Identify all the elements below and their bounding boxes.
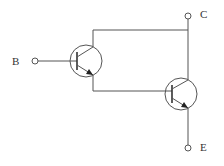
collector-terminal: [185, 13, 191, 19]
q2-body-icon: [165, 78, 197, 110]
emitter-terminal: [185, 145, 191, 151]
base-label: B: [12, 55, 19, 67]
emitter-label: E: [200, 141, 207, 153]
q2-collector-lead: [172, 80, 188, 89]
collector-label: C: [200, 8, 207, 20]
q2-emitter-arrow-icon: [181, 102, 188, 108]
darlington-diagram: B C E: [0, 0, 224, 166]
q1-collector-lead: [77, 47, 93, 57]
transistor-q2: [165, 78, 197, 145]
q1-emitter-arrow-icon: [86, 69, 93, 75]
base-terminal: [32, 58, 38, 64]
